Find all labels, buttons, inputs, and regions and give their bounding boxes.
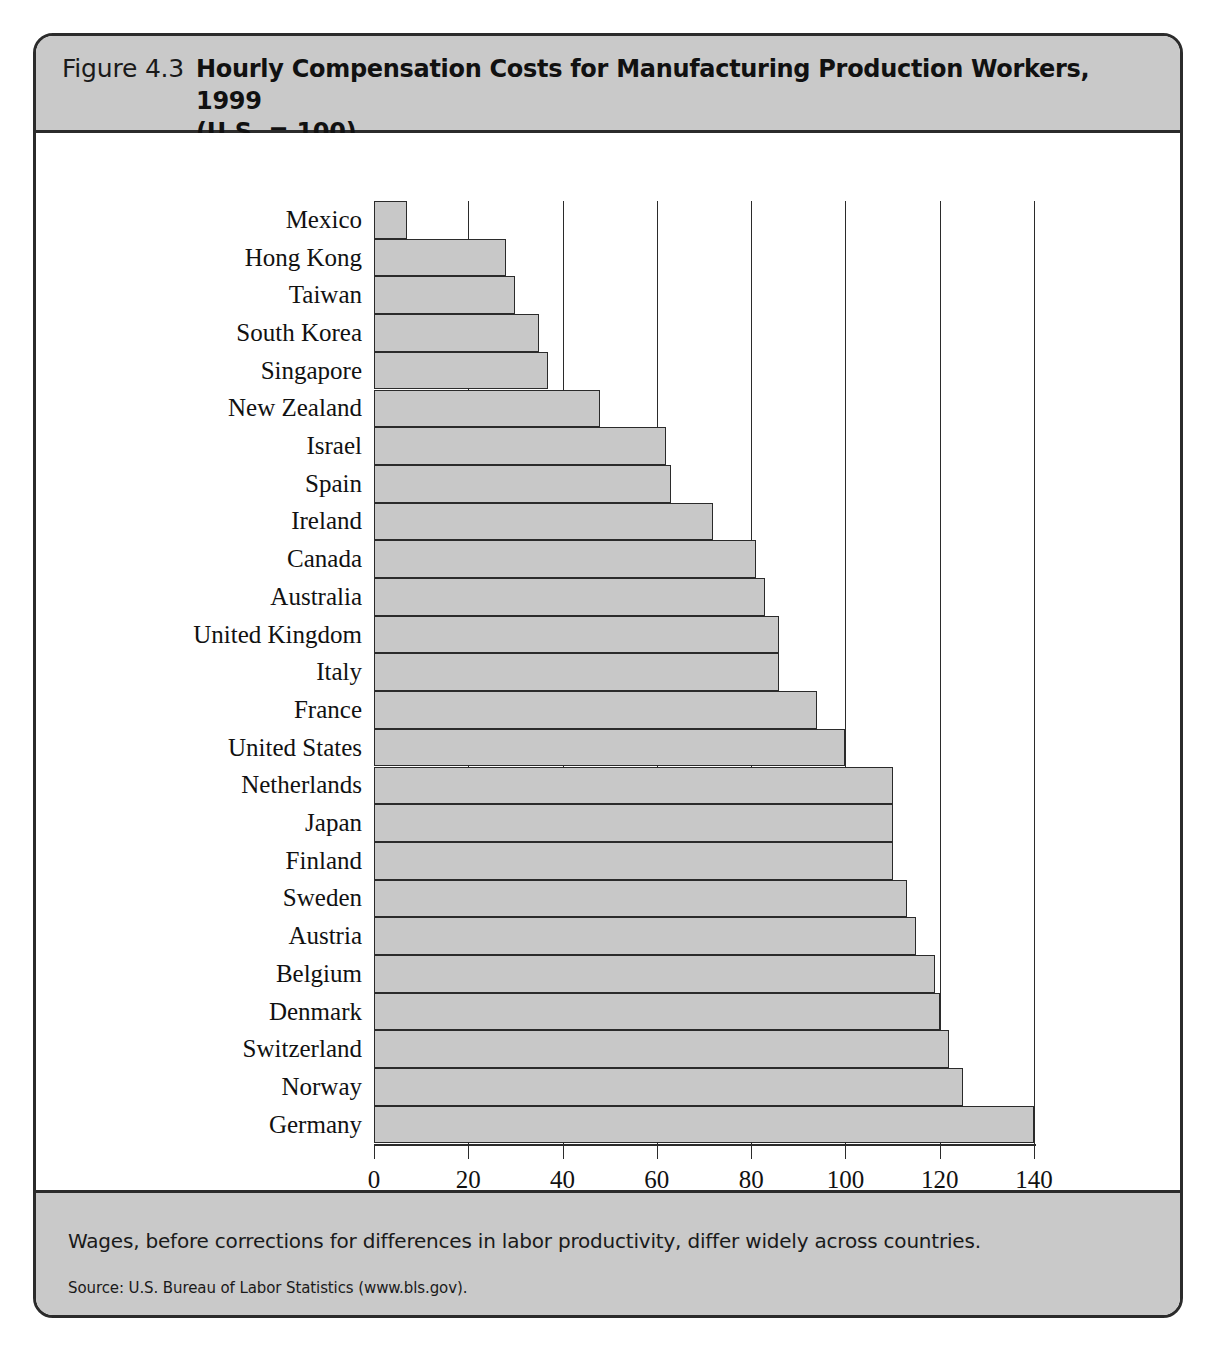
bar[interactable] <box>374 993 940 1031</box>
bar[interactable] <box>374 503 713 541</box>
bar-row[interactable]: Australia <box>36 578 1180 616</box>
bar[interactable] <box>374 1068 963 1106</box>
category-label: Mexico <box>286 206 362 234</box>
bar-row[interactable]: Taiwan <box>36 276 1180 314</box>
category-label: Spain <box>305 470 362 498</box>
bar[interactable] <box>374 880 907 918</box>
category-label: France <box>294 696 362 724</box>
caption-text: Wages, before corrections for difference… <box>68 1229 981 1253</box>
bar[interactable] <box>374 804 893 842</box>
bar-row[interactable]: Germany <box>36 1106 1180 1144</box>
caption-band: Wages, before corrections for difference… <box>36 1190 1180 1315</box>
bar[interactable] <box>374 917 916 955</box>
bar[interactable] <box>374 239 506 277</box>
bar-row[interactable]: Japan <box>36 804 1180 842</box>
figure-frame: Figure 4.3 Hourly Compensation Costs for… <box>33 33 1183 1318</box>
bar-row[interactable]: Italy <box>36 653 1180 691</box>
bar[interactable] <box>374 427 666 465</box>
bar-row[interactable]: France <box>36 691 1180 729</box>
bar-row[interactable]: Mexico <box>36 201 1180 239</box>
category-label: Italy <box>316 658 362 686</box>
bar-row[interactable]: New Zealand <box>36 390 1180 428</box>
bar-row[interactable]: United Kingdom <box>36 616 1180 654</box>
bar-row[interactable]: Singapore <box>36 352 1180 390</box>
category-label: Finland <box>286 847 362 875</box>
x-tick-120 <box>940 1146 941 1159</box>
bar[interactable] <box>374 691 817 729</box>
x-tick-40 <box>563 1146 564 1159</box>
bar-row[interactable]: Spain <box>36 465 1180 503</box>
bar[interactable] <box>374 955 935 993</box>
category-label: New Zealand <box>228 394 362 422</box>
category-label: Sweden <box>283 884 362 912</box>
x-tick-60 <box>657 1146 658 1159</box>
bar[interactable] <box>374 1106 1034 1144</box>
figure-header-band: Figure 4.3 Hourly Compensation Costs for… <box>36 36 1180 133</box>
category-label: Ireland <box>291 507 362 535</box>
category-label: Taiwan <box>289 281 362 309</box>
x-tick-0 <box>374 1146 375 1159</box>
x-tick-140 <box>1034 1146 1035 1159</box>
bar-row[interactable]: Israel <box>36 427 1180 465</box>
category-label: Hong Kong <box>245 244 362 272</box>
bar[interactable] <box>374 1030 949 1068</box>
bar-row[interactable]: Sweden <box>36 880 1180 918</box>
x-tick-100 <box>845 1146 846 1159</box>
source-text: Source: U.S. Bureau of Labor Statistics … <box>68 1279 467 1297</box>
bar[interactable] <box>374 767 893 805</box>
category-label: Canada <box>287 545 362 573</box>
category-label: Denmark <box>269 998 362 1026</box>
category-label: Switzerland <box>243 1035 362 1063</box>
bar[interactable] <box>374 465 671 503</box>
bar[interactable] <box>374 390 600 428</box>
bar-row[interactable]: Ireland <box>36 503 1180 541</box>
category-label: Austria <box>288 922 362 950</box>
bar[interactable] <box>374 352 548 390</box>
bar[interactable] <box>374 540 756 578</box>
bar-row[interactable]: Finland <box>36 842 1180 880</box>
category-label: Israel <box>306 432 362 460</box>
category-label: Japan <box>305 809 362 837</box>
bar-row[interactable]: Norway <box>36 1068 1180 1106</box>
category-label: Norway <box>281 1073 362 1101</box>
bar[interactable] <box>374 729 845 767</box>
category-label: South Korea <box>236 319 362 347</box>
bar[interactable] <box>374 314 539 352</box>
category-label: Belgium <box>276 960 362 988</box>
bar-row[interactable]: Austria <box>36 917 1180 955</box>
bar[interactable] <box>374 842 893 880</box>
x-axis-line <box>374 1144 1036 1146</box>
bar[interactable] <box>374 578 765 616</box>
bar[interactable] <box>374 653 779 691</box>
figure-number: Figure 4.3 <box>62 54 184 83</box>
x-tick-20 <box>468 1146 469 1159</box>
bar-row[interactable]: Denmark <box>36 993 1180 1031</box>
category-label: Netherlands <box>241 771 362 799</box>
bar-row[interactable]: Hong Kong <box>36 239 1180 277</box>
bar-row[interactable]: South Korea <box>36 314 1180 352</box>
bar-row[interactable]: Canada <box>36 540 1180 578</box>
bar-chart: Index of hourly compensation costs Mexic… <box>36 133 1180 1196</box>
bar-row[interactable]: United States <box>36 729 1180 767</box>
category-label: United Kingdom <box>193 621 362 649</box>
plot-region: Index of hourly compensation costs Mexic… <box>36 133 1180 1196</box>
bar[interactable] <box>374 276 515 314</box>
bar-row[interactable]: Belgium <box>36 955 1180 993</box>
category-label: Australia <box>270 583 362 611</box>
category-label: United States <box>228 734 362 762</box>
bar-row[interactable]: Switzerland <box>36 1030 1180 1068</box>
bar-row[interactable]: Netherlands <box>36 767 1180 805</box>
x-tick-80 <box>751 1146 752 1159</box>
bar[interactable] <box>374 201 407 239</box>
category-label: Singapore <box>261 357 362 385</box>
figure-title-line-1: Hourly Compensation Costs for Manufactur… <box>196 54 1154 117</box>
category-label: Germany <box>269 1111 362 1139</box>
bar[interactable] <box>374 616 779 654</box>
